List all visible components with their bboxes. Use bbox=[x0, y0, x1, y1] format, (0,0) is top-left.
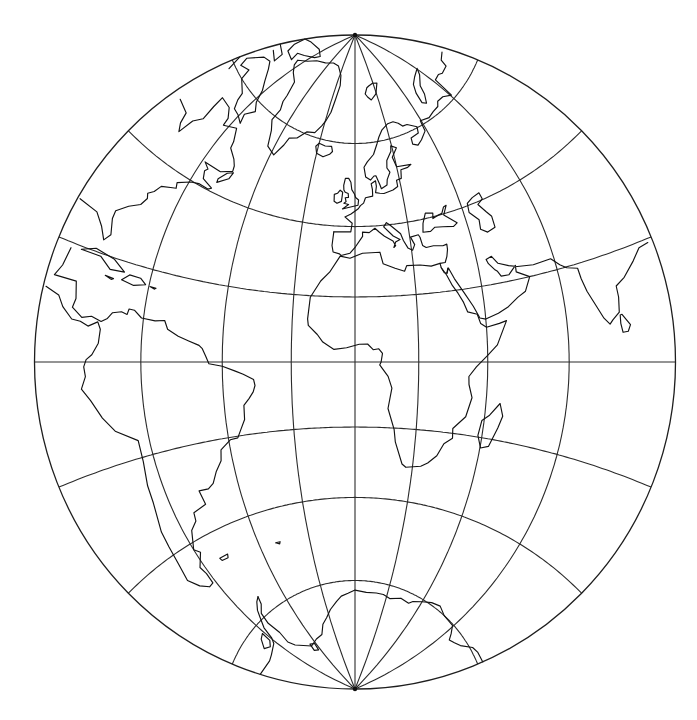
coastline-central-south-america bbox=[46, 248, 255, 587]
coastline-sri-lanka bbox=[620, 314, 630, 332]
coastline-arabia-asia bbox=[447, 243, 648, 325]
stereographic-world-map bbox=[0, 0, 697, 720]
coastline-south-georgia bbox=[276, 542, 280, 544]
map-container bbox=[0, 0, 697, 720]
coastline-hispaniola bbox=[122, 275, 146, 286]
coastline-europe-asia-south bbox=[332, 223, 448, 264]
coastline-antarctica-peninsula-east bbox=[258, 590, 483, 662]
coastlines bbox=[46, 39, 648, 674]
coastline-north-america-east bbox=[80, 57, 240, 240]
south-pole-marker bbox=[353, 687, 357, 691]
coastline-falklands bbox=[220, 554, 228, 560]
coastline-novaya-zemlya bbox=[413, 68, 426, 103]
coastline-caspian bbox=[467, 193, 495, 232]
coastline-puerto-rico bbox=[150, 287, 156, 290]
coastline-africa bbox=[308, 252, 507, 467]
coastline-baffin bbox=[234, 57, 270, 123]
coastline-ireland bbox=[334, 190, 343, 203]
coastline-jamaica bbox=[105, 275, 113, 279]
coastline-devon-islands bbox=[273, 44, 282, 61]
north-pole-marker bbox=[353, 33, 357, 37]
coastline-ellesmere bbox=[288, 39, 320, 60]
coastline-newfoundland bbox=[217, 173, 234, 183]
coastline-alexander-island bbox=[261, 634, 270, 649]
coastline-cuba bbox=[81, 248, 124, 272]
coastline-black-sea bbox=[423, 205, 457, 232]
coastline-red-sea-sinai bbox=[441, 268, 448, 274]
coastline-britain bbox=[343, 178, 359, 209]
